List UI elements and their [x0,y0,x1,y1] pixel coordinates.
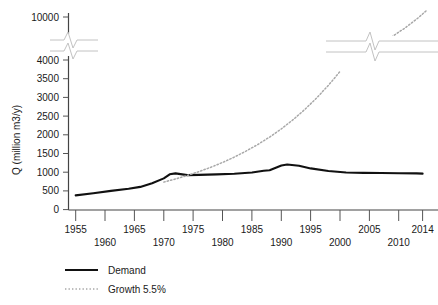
y-tick-labels: 10000 4000 3500 3000 2500 2000 1500 1000… [31,12,59,216]
x-tick-labels-lower: 1960 1970 1980 1990 2000 2010 [94,237,410,248]
y-tick-label-10000: 10000 [31,12,59,23]
y-axis-title-group: Q (million m3/y) [11,105,22,175]
legend-item-demand[interactable]: Demand [65,265,146,276]
x-tick-marks [76,210,423,221]
x-axis: 1955 1965 1975 1985 1995 2005 2014 1960 … [65,210,438,248]
x-tick-label-1995: 1995 [299,224,322,235]
y-tick-label-500: 500 [42,185,59,196]
y-tick-label-1500: 1500 [37,148,60,159]
x-tick-label-2005: 2005 [358,224,381,235]
chart-container: Q (million m3/y) 10000 4000 3500 [0,0,438,305]
series-demand-line [76,165,423,196]
y-tick-label-1000: 1000 [37,167,60,178]
x-tick-label-1980: 1980 [211,237,234,248]
y-tick-label-3500: 3500 [37,73,60,84]
x-tick-label-2010: 2010 [388,237,411,248]
y-tick-label-2000: 2000 [37,129,60,140]
y-axis-break-left [50,32,98,59]
x-tick-label-1965: 1965 [123,224,146,235]
x-tick-label-2000: 2000 [329,237,352,248]
y-tick-label-3000: 3000 [37,92,60,103]
line-chart: Q (million m3/y) 10000 4000 3500 [0,0,438,305]
x-tick-label-1960: 1960 [94,237,117,248]
y-tick-label-2500: 2500 [37,111,60,122]
legend-item-growth[interactable]: Growth 5.5% [65,284,166,295]
y-axis-title: Q (million m3/y) [11,105,22,175]
x-tick-label-1990: 1990 [270,237,293,248]
y-axis-break-right [324,32,438,61]
legend-label-growth: Growth 5.5% [108,284,166,295]
x-tick-label-2014: 2014 [411,224,434,235]
x-tick-label-1985: 1985 [241,224,264,235]
legend: Demand Growth 5.5% [65,265,166,295]
series-growth-line-lower [164,71,340,182]
y-tick-label-4000: 4000 [37,55,60,66]
x-tick-label-1975: 1975 [182,224,205,235]
x-tick-label-1970: 1970 [153,237,176,248]
x-tick-labels-upper: 1955 1965 1975 1985 1995 2005 2014 [65,224,435,235]
y-tick-label-0: 0 [53,204,59,215]
legend-label-demand: Demand [108,265,146,276]
x-tick-label-1955: 1955 [65,224,88,235]
